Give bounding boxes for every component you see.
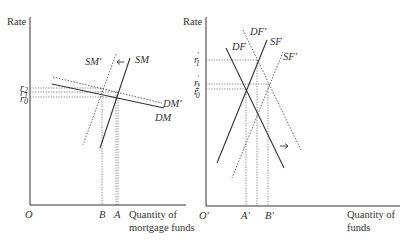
label-SM: SM: [135, 54, 150, 65]
right-x-axis-label-line1: Quantity of: [347, 209, 396, 220]
left-panel: Rate O Quantity of mortgage funds r2 r1 …: [7, 16, 195, 233]
curve-SF: [217, 40, 267, 163]
label-SF: SF: [270, 36, 282, 47]
left-origin-label: O: [25, 209, 33, 220]
svg-text:r′1: r′1: [194, 51, 200, 68]
curve-SM-prime: [83, 54, 116, 145]
label-DM-prime: DM′: [162, 98, 182, 109]
diagram-canvas: Rate O Quantity of mortgage funds r2 r1 …: [0, 0, 415, 245]
right-panel: Rate O′ Quantity of funds r′1 r′2 r′0 DF…: [183, 16, 400, 233]
left-qty-tick-A: A: [113, 209, 121, 220]
curve-SM: [100, 58, 130, 148]
left-y-axis-label: Rate: [7, 16, 27, 27]
right-qty-tick-A-prime: A′: [240, 210, 250, 221]
label-SM-prime: SM′: [85, 56, 102, 67]
right-x-axis-label-line2: funds: [347, 222, 370, 233]
left-qty-tick-B: B: [99, 209, 106, 220]
label-DF-prime: DF′: [249, 26, 267, 37]
right-shift-arrow-icon: [280, 144, 288, 149]
left-x-axis-label-line1: Quantity of: [129, 209, 178, 220]
curve-DF: [226, 48, 284, 168]
label-DF: DF: [231, 41, 247, 52]
curve-SF-prime: [232, 52, 283, 178]
left-shift-arrow-icon: [117, 60, 124, 65]
curve-DM: [52, 84, 164, 108]
right-y-axis-label: Rate: [183, 16, 203, 27]
label-DM: DM: [154, 112, 173, 123]
curve-DF-prime: [243, 30, 301, 150]
curve-DM-prime: [53, 77, 162, 103]
label-SF-prime: SF′: [283, 51, 298, 62]
right-origin-label: O′: [199, 210, 210, 221]
left-x-axis-label-line2: mortgage funds: [129, 222, 195, 233]
right-rate-tick-r1-prime: r′1: [194, 51, 200, 68]
right-qty-tick-B-prime: B′: [265, 210, 274, 221]
